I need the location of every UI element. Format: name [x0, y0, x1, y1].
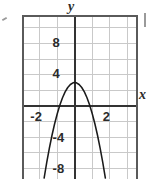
x-axis-label: x [139, 88, 146, 102]
x-tick-2: 2 [103, 110, 110, 123]
y-tick-8: 8 [53, 36, 60, 49]
y-tick-4: 4 [53, 67, 60, 80]
graph-screenshot: y x 84-4-8-22 [0, 0, 147, 179]
plot-frame [22, 15, 138, 179]
y-axis-label: y [68, 0, 74, 14]
scan-artifact-left [2, 17, 7, 21]
y-tick--8: -8 [53, 162, 65, 175]
x-tick--2: -2 [30, 110, 42, 123]
parabola-curve [24, 17, 136, 179]
y-tick--4: -4 [53, 131, 65, 144]
scan-artifact-right [144, 13, 146, 27]
